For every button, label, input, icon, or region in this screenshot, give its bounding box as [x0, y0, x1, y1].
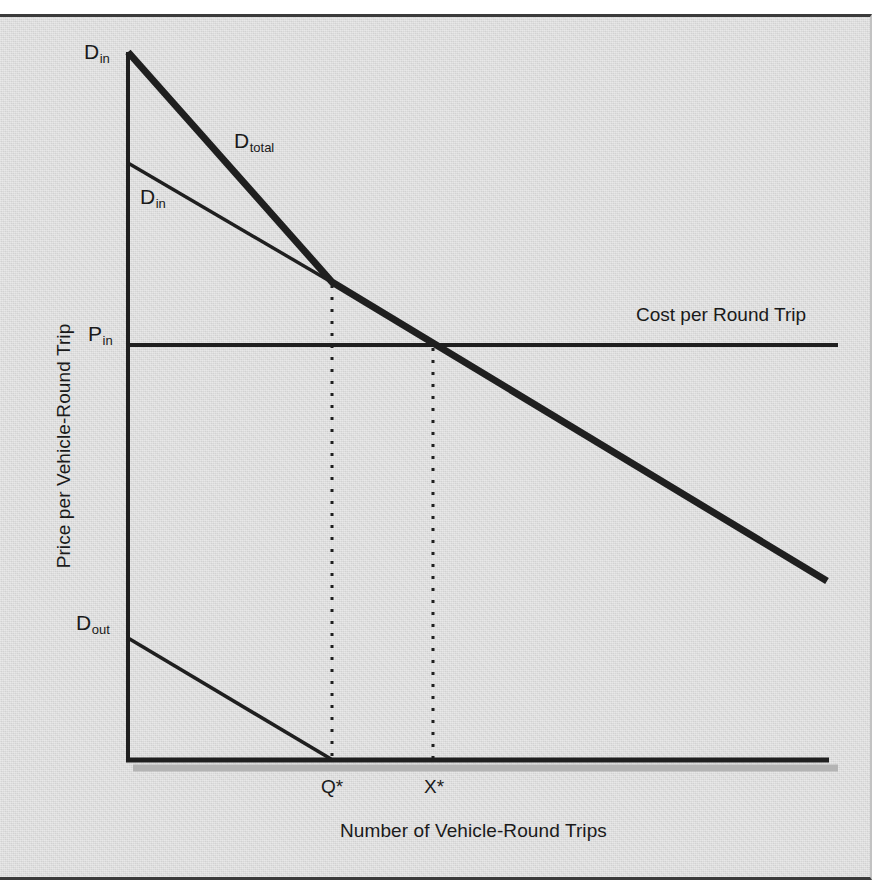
- tick-label-x-star: X*: [404, 776, 464, 798]
- d-in-curve: [128, 163, 333, 283]
- cost-per-round-trip-label: Cost per Round Trip: [636, 304, 806, 326]
- figure-container: Din Dtotal Din Dout Pin Cost per Round T…: [0, 0, 879, 887]
- d-out-curve: [128, 638, 331, 759]
- y-axis-title: Price per Vehicle-Round Trip: [53, 296, 75, 596]
- x-axis-title: Number of Vehicle-Round Trips: [340, 820, 607, 842]
- tick-label-q-star: Q*: [302, 776, 362, 798]
- d-out-label: Dout: [76, 611, 109, 635]
- p-in-label: Pin: [88, 322, 112, 346]
- d-in-lower-label: Din: [140, 185, 165, 209]
- chart-canvas: [0, 0, 879, 887]
- d-in-top-label: Din: [84, 40, 109, 64]
- d-total-label: Dtotal: [234, 129, 274, 153]
